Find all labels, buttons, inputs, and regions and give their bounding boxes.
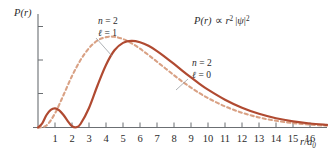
formula-annotation: P(r)∝r2|ψ|2 <box>193 15 250 28</box>
x-tick-label: 9 <box>188 133 193 144</box>
curve-n2-l1-dashed <box>38 37 327 128</box>
x-tick-label: 3 <box>86 133 91 144</box>
x-tick-label: 6 <box>137 133 142 144</box>
x-tick-label: 8 <box>171 133 176 144</box>
svg-text:n= 2: n= 2 <box>192 58 212 68</box>
x-tick-label: 2 <box>69 133 74 144</box>
x-axis-ticks <box>55 123 310 128</box>
solid-curve-annotation: n= 2 ℓ= 0 <box>192 58 212 80</box>
x-tick-label: 11 <box>220 133 230 144</box>
svg-text:n= 2: n= 2 <box>98 16 118 26</box>
y-axis-label: P(r) <box>13 7 32 19</box>
dashed-curve-annotation: n= 2 ℓ= 1 <box>98 16 118 38</box>
y-axis-ticks <box>38 27 43 94</box>
radial-probability-figure: 12345678910111213141516 P(r) r/a0 P(r)∝r… <box>0 0 335 162</box>
x-tick-label: 15 <box>288 133 299 144</box>
x-tick-label: 4 <box>103 133 109 144</box>
x-tick-label: 10 <box>203 133 214 144</box>
svg-text:ℓ= 1: ℓ= 1 <box>98 28 117 38</box>
x-tick-label: 7 <box>154 133 159 144</box>
plot-svg: 12345678910111213141516 P(r) r/a0 P(r)∝r… <box>0 0 335 162</box>
leader-line-dashed <box>96 38 112 56</box>
x-tick-label: 13 <box>254 133 265 144</box>
svg-text:ℓ= 0: ℓ= 0 <box>192 70 211 80</box>
x-tick-label: 12 <box>237 133 248 144</box>
x-tick-label: 1 <box>52 133 57 144</box>
x-tick-label: 5 <box>120 133 125 144</box>
x-axis-tick-labels: 12345678910111213141516 <box>52 133 315 144</box>
x-tick-label: 14 <box>271 133 282 144</box>
